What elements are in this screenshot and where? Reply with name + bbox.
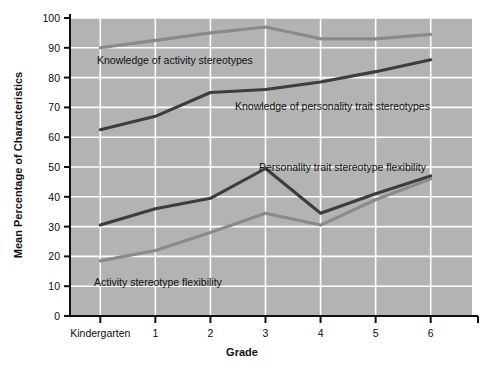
chart-figure: 0102030405060708090100 Kindergarten12345… [0,0,484,367]
x-tick-label: 3 [263,327,269,339]
y-tick-label: 20 [48,250,60,262]
series-annotation-3: Personality trait stereotype flexibility [259,161,427,173]
x-axis-title: Grade [226,346,258,358]
series-annotation-2: Knowledge of personality trait stereotyp… [235,100,430,112]
y-tick-label: 90 [48,42,60,54]
y-tick-label: 40 [48,191,60,203]
y-tick-label: 0 [54,310,60,322]
y-tick-label: 70 [48,101,60,113]
y-tick-label: 100 [42,12,60,24]
y-tick-label: 50 [48,161,60,173]
x-tick-label: 1 [152,327,158,339]
y-tick-label: 80 [48,72,60,84]
x-tick-label: Kindergarten [70,327,130,339]
y-tick-label: 30 [48,221,60,233]
x-tick-label: 5 [373,327,379,339]
series-annotation-1: Knowledge of activity stereotypes [97,54,253,66]
y-axis-title: Mean Percentage of Characteristics [12,72,24,258]
y-tick-label: 10 [48,280,60,292]
x-tick-label: 2 [208,327,214,339]
line-chart-svg: 0102030405060708090100 Kindergarten12345… [0,0,484,367]
x-tick-label: 6 [428,327,434,339]
x-tick-label: 4 [318,327,324,339]
y-tick-label: 60 [48,131,60,143]
series-annotation-4: Activity stereotype flexibility [94,276,223,288]
